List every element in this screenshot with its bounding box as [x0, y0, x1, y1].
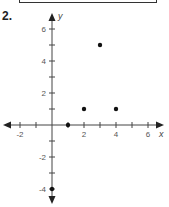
data-point	[50, 187, 54, 191]
data-point	[114, 107, 118, 111]
y-axis-up-arrow-icon	[49, 13, 56, 21]
data-points	[50, 43, 118, 191]
x-tick-label: -2	[16, 130, 24, 139]
data-point	[66, 123, 70, 127]
x-axis-label: x	[158, 129, 164, 139]
x-axis-right-arrow-icon	[156, 122, 164, 129]
y-axis-label: y	[57, 11, 63, 21]
y-axis-down-arrow-icon	[49, 196, 56, 204]
y-tick-label: 6	[42, 25, 47, 34]
y-tick-label: -4	[39, 185, 47, 194]
x-tick-label: 2	[82, 130, 87, 139]
x-tick-label: 6	[146, 130, 151, 139]
data-point	[82, 107, 86, 111]
coordinate-plane: -2 2 4 6 6 4 2 -2 -4 y x	[0, 0, 169, 207]
data-point	[98, 43, 102, 47]
y-tick-label: 2	[42, 89, 47, 98]
x-axis-left-arrow-icon	[3, 122, 11, 129]
y-tick-label: -2	[39, 153, 47, 162]
x-tick-label: 4	[114, 130, 119, 139]
y-tick-label: 4	[42, 57, 47, 66]
